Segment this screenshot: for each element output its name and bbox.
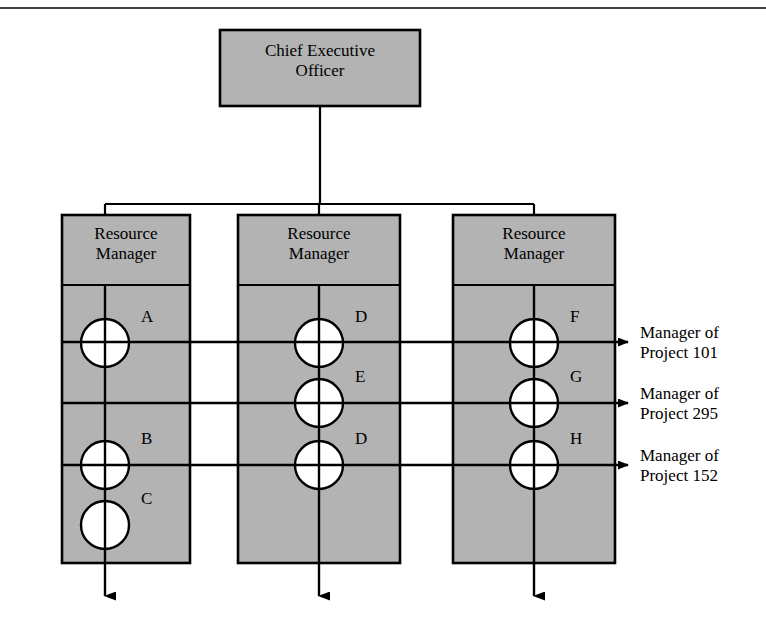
- resource-letter-rm2-0: D: [355, 307, 395, 327]
- resource-letter-rm1-0: A: [141, 307, 181, 327]
- resource-manager-title-rm1: ResourceManager: [62, 224, 190, 264]
- diagram-canvas: Chief ExecutiveOfficer ResourceManagerRe…: [0, 0, 766, 632]
- ceo-label: Chief ExecutiveOfficer: [220, 41, 420, 81]
- resource-letter-rm3-1: G: [570, 367, 610, 387]
- column-down-arrows: [105, 563, 534, 596]
- resource-letter-rm1-2: C: [141, 489, 181, 509]
- resource-letter-rm1-1: B: [141, 429, 181, 449]
- project-manager-label-p295: Manager ofProject 295: [640, 384, 766, 424]
- project-manager-label-p101: Manager ofProject 101: [640, 323, 766, 363]
- resource-manager-title-rm3: ResourceManager: [453, 224, 615, 264]
- resource-manager-title-rm2: ResourceManager: [238, 224, 400, 264]
- column-drop-lines: [105, 204, 534, 215]
- resource-letter-rm2-1: E: [355, 367, 395, 387]
- resource-manager-box-rm1[interactable]: [62, 215, 190, 563]
- resource-letter-rm2-2: D: [355, 429, 395, 449]
- resource-letter-rm3-0: F: [570, 307, 610, 327]
- resource-letter-rm3-2: H: [570, 429, 610, 449]
- project-manager-label-p152: Manager ofProject 152: [640, 446, 766, 486]
